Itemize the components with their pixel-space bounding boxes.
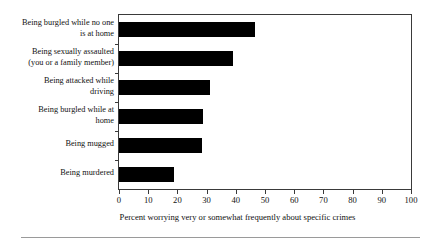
category-label: Being murdered — [0, 168, 114, 179]
x-axis-tick — [119, 190, 120, 194]
bar-row — [119, 138, 411, 153]
x-axis-tick — [207, 190, 208, 194]
x-axis-tick-label: 0 — [117, 195, 121, 206]
bar — [119, 138, 202, 153]
bar-row — [119, 167, 411, 182]
x-axis-tick-label: 10 — [144, 195, 153, 206]
bar — [119, 51, 233, 66]
bar-chart-figure: Being burgled while no oneis at homeBein… — [0, 0, 440, 247]
x-axis-tick-label: 100 — [405, 195, 418, 206]
category-label-line: driving — [0, 87, 114, 98]
category-label-line: Being burgled while no one — [0, 18, 114, 29]
bar — [119, 167, 174, 182]
x-axis-tick-label: 70 — [319, 195, 328, 206]
category-label-line: is at home — [0, 29, 114, 40]
category-label-line: Being sexually assaulted — [0, 47, 114, 58]
category-label: Being burgled while no oneis at home — [0, 18, 114, 39]
x-axis-tick — [265, 190, 266, 194]
x-axis-tick — [323, 190, 324, 194]
bar-row — [119, 109, 411, 124]
x-axis-tick — [236, 190, 237, 194]
category-label: Being burgled while athome — [0, 105, 114, 126]
x-axis-tick-label: 90 — [378, 195, 387, 206]
x-axis-tick-label: 40 — [232, 195, 241, 206]
category-label-line: Being attacked while — [0, 76, 114, 87]
bar-row — [119, 22, 411, 37]
x-axis-tick — [294, 190, 295, 194]
bar — [119, 109, 203, 124]
x-axis-tick — [411, 190, 412, 194]
bar-row — [119, 80, 411, 95]
bar-row — [119, 51, 411, 66]
x-axis-tick — [148, 190, 149, 194]
x-axis-title: Percent worrying very or somewhat freque… — [0, 212, 440, 222]
bars-layer — [119, 15, 411, 189]
x-axis-tick-label: 60 — [290, 195, 299, 206]
category-label-line: home — [0, 116, 114, 127]
x-axis-tick-label: 20 — [173, 195, 182, 206]
x-axis-tick — [382, 190, 383, 194]
category-label: Being attacked whiledriving — [0, 76, 114, 97]
category-label-line: Being mugged — [0, 139, 114, 150]
bar — [119, 80, 210, 95]
category-label-line: (you or a family member) — [0, 58, 114, 69]
category-label-line: Being murdered — [0, 168, 114, 179]
x-axis-tick-label: 80 — [348, 195, 357, 206]
bar — [119, 22, 255, 37]
category-label: Being sexually assaulted(you or a family… — [0, 47, 114, 68]
footer-rule — [21, 237, 420, 238]
x-axis-tick-label: 50 — [261, 195, 270, 206]
category-label: Being mugged — [0, 139, 114, 150]
category-label-line: Being burgled while at — [0, 105, 114, 116]
x-axis-tick — [177, 190, 178, 194]
x-axis: 0102030405060708090100 — [118, 190, 412, 212]
category-axis-labels: Being burgled while no oneis at homeBein… — [0, 14, 114, 190]
x-axis-tick — [353, 190, 354, 194]
x-axis-tick-label: 30 — [202, 195, 211, 206]
